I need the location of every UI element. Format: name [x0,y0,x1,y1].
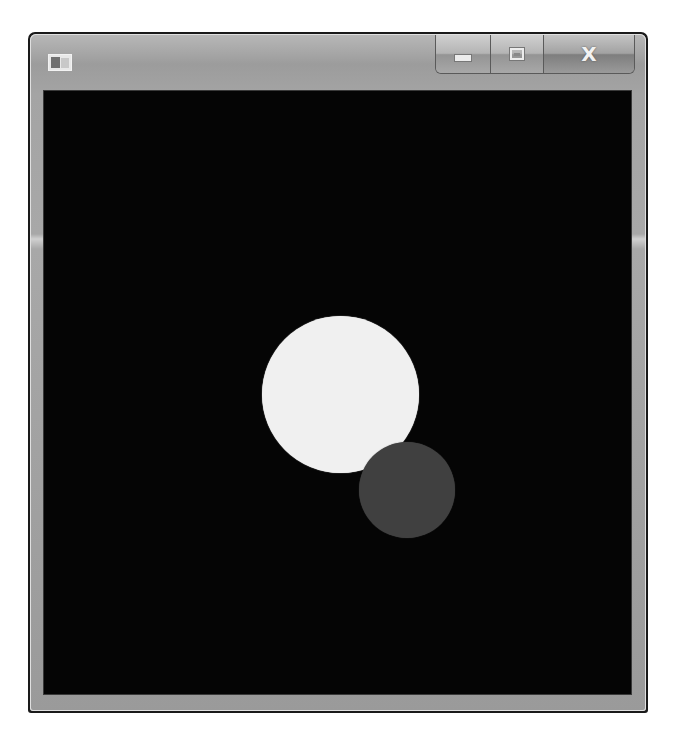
app-icon[interactable] [48,54,72,71]
maximize-button[interactable] [491,35,544,73]
close-button[interactable]: X [544,35,634,73]
small-gray-circle [359,442,455,538]
canvas-area[interactable] [43,90,632,695]
title-bar[interactable]: X [30,34,646,90]
minimize-icon [454,54,472,62]
caption-buttons: X [435,35,635,74]
maximize-icon [510,48,524,60]
app-window: X [28,32,648,713]
close-icon: X [581,42,596,66]
minimize-button[interactable] [436,35,491,73]
